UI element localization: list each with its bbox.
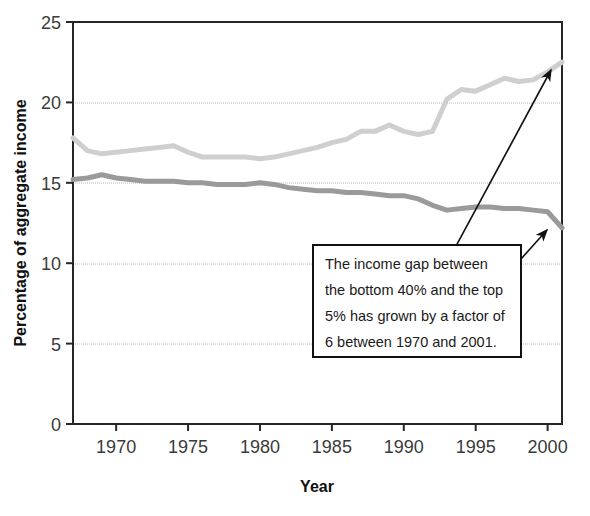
x-tick-label: 1985 [312, 437, 352, 457]
chart-canvas: 0510152025 1970197519801985199019952000 … [0, 0, 590, 516]
y-tick-label: 20 [41, 93, 61, 113]
plot-area-background [73, 22, 562, 424]
x-tick-label: 1980 [240, 437, 280, 457]
income-distribution-chart: 0510152025 1970197519801985199019952000 … [0, 0, 590, 516]
y-tick-label: 5 [51, 335, 61, 355]
y-tick-label: 10 [41, 254, 61, 274]
annotation-line-2: the bottom 40% and the top [325, 282, 503, 298]
x-tick-label: 1995 [456, 437, 496, 457]
annotation-line-3: 5% has grown by a factor of [325, 308, 506, 324]
x-tick-label: 1970 [96, 437, 136, 457]
y-axis-title: Percentage of aggregate income [12, 99, 29, 346]
x-axis-title: Year [300, 478, 334, 495]
y-axis-ticks: 0510152025 [41, 13, 73, 435]
y-tick-label: 0 [51, 415, 61, 435]
y-tick-label: 15 [41, 174, 61, 194]
annotation-line-1: The income gap between [325, 256, 488, 272]
x-tick-label: 1990 [384, 437, 424, 457]
annotation-line-4: 6 between 1970 and 2001. [325, 334, 497, 350]
x-axis-ticks: 1970197519801985199019952000 [96, 424, 568, 457]
x-tick-label: 1975 [168, 437, 208, 457]
x-tick-label: 2000 [528, 437, 568, 457]
y-tick-label: 25 [41, 13, 61, 33]
